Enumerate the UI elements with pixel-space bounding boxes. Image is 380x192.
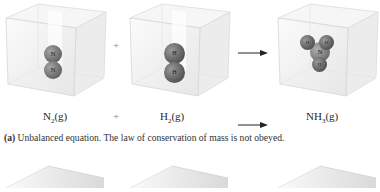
caption-text: Unbalanced equation. The law of conserva… — [15, 132, 284, 143]
label-arrow — [238, 115, 268, 133]
label-h2: H2(g) — [160, 110, 184, 125]
atom-h-left: H — [300, 35, 315, 50]
cube-b2-top — [128, 164, 232, 192]
reaction-arrow — [238, 43, 268, 61]
arrow-right-icon — [238, 121, 268, 129]
figure-caption: (a) Unbalanced equation. The law of cons… — [4, 132, 284, 143]
cube-n2: N N — [4, 2, 108, 98]
arrow-right-icon — [238, 49, 268, 57]
atom-h-right: H — [319, 35, 334, 50]
label-nh3: NH3(g) — [306, 110, 338, 125]
atom-h-bottom: H — [312, 57, 327, 72]
label-n2: N2(g) — [43, 110, 67, 125]
cube-b2-top-graphic — [128, 164, 232, 188]
cube-b3-top — [276, 164, 380, 192]
plus-sign: + — [113, 39, 119, 51]
atom-h-top: H — [164, 43, 185, 64]
cube-b3-top-graphic — [276, 164, 380, 188]
label-plus-sign: + — [113, 110, 119, 122]
cube-b1-top — [4, 164, 108, 192]
cube-nh3: N H H H — [276, 2, 380, 98]
cube-b1-top-graphic — [4, 164, 108, 188]
atom-n-bottom: N — [44, 61, 62, 79]
caption-label: (a) — [4, 132, 15, 143]
cube-h2: H H — [128, 2, 232, 98]
atom-h-bottom: H — [164, 62, 185, 83]
